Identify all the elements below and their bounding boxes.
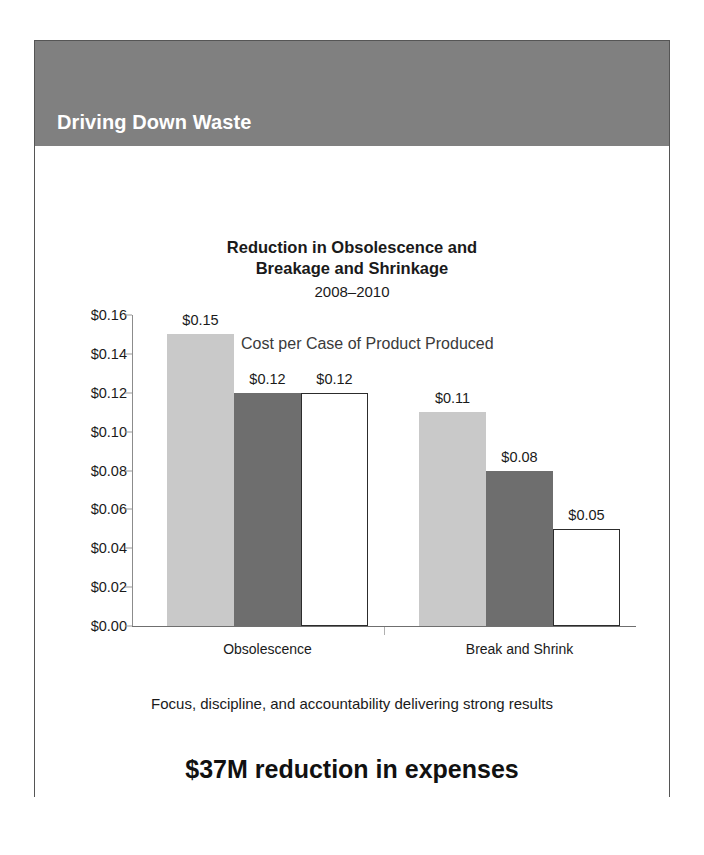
bar-value-label: $0.12: [316, 371, 352, 387]
y-axis-tick-label: $0.10: [91, 424, 127, 440]
y-axis-tick: [125, 431, 132, 432]
y-axis-tick-label: $0.12: [91, 385, 127, 401]
bar-break-and-shrink-2008: [419, 412, 486, 626]
y-axis-tick-label: $0.04: [91, 540, 127, 556]
y-axis-tick-label: $0.08: [91, 463, 127, 479]
bar-obsolescence-2008: [167, 334, 234, 626]
bar-value-label: $0.08: [501, 449, 537, 465]
x-axis-mid-tick: [384, 627, 385, 635]
y-axis-tick-label: $0.02: [91, 579, 127, 595]
slide-body: Reduction in Obsolescence and Breakage a…: [35, 147, 669, 797]
y-axis-tick-label: $0.00: [91, 618, 127, 634]
bar-value-label: $0.12: [249, 371, 285, 387]
y-axis-tick: [125, 315, 132, 316]
bar-break-and-shrink-2009: [486, 471, 553, 627]
y-axis-tick: [125, 587, 132, 588]
y-axis-tick: [125, 392, 132, 393]
y-axis-tick-label: $0.16: [91, 307, 127, 323]
bar-value-label: $0.05: [568, 507, 604, 523]
slide-title: Driving Down Waste: [57, 111, 251, 134]
footer-headline: $37M reduction in expenses: [35, 755, 669, 784]
bar-break-and-shrink-2010: [553, 529, 620, 626]
x-axis-category-label: Obsolescence: [223, 641, 312, 657]
y-axis-tick-label: $0.14: [91, 346, 127, 362]
bar-value-label: $0.15: [182, 312, 218, 328]
slide-header-band: Driving Down Waste: [35, 41, 669, 146]
y-axis-tick-label: $0.06: [91, 501, 127, 517]
y-axis-tick: [125, 509, 132, 510]
bar-obsolescence-2010: [301, 393, 368, 626]
bar-obsolescence-2009: [234, 393, 301, 626]
y-axis-line: [132, 315, 133, 627]
x-axis-category-label: Break and Shrink: [466, 641, 573, 657]
slide-frame: Driving Down Waste Reduction in Obsolesc…: [34, 40, 670, 797]
y-axis-tick: [125, 353, 132, 354]
y-axis-tick: [125, 626, 132, 627]
chart-annotation: Cost per Case of Product Produced: [241, 335, 494, 353]
y-axis-tick: [125, 548, 132, 549]
y-axis-tick: [125, 470, 132, 471]
footer-note: Focus, discipline, and accountability de…: [35, 695, 669, 712]
bar-value-label: $0.11: [435, 390, 470, 406]
